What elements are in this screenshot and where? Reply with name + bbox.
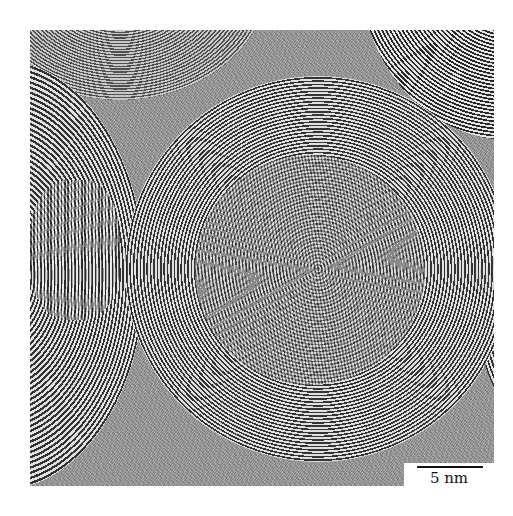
tem-micrograph	[30, 30, 494, 486]
scale-bar	[417, 466, 483, 468]
particle-main-core	[195, 155, 425, 385]
particle-left-core	[30, 180, 120, 320]
scale-bar-label: 5 nm	[404, 469, 494, 487]
